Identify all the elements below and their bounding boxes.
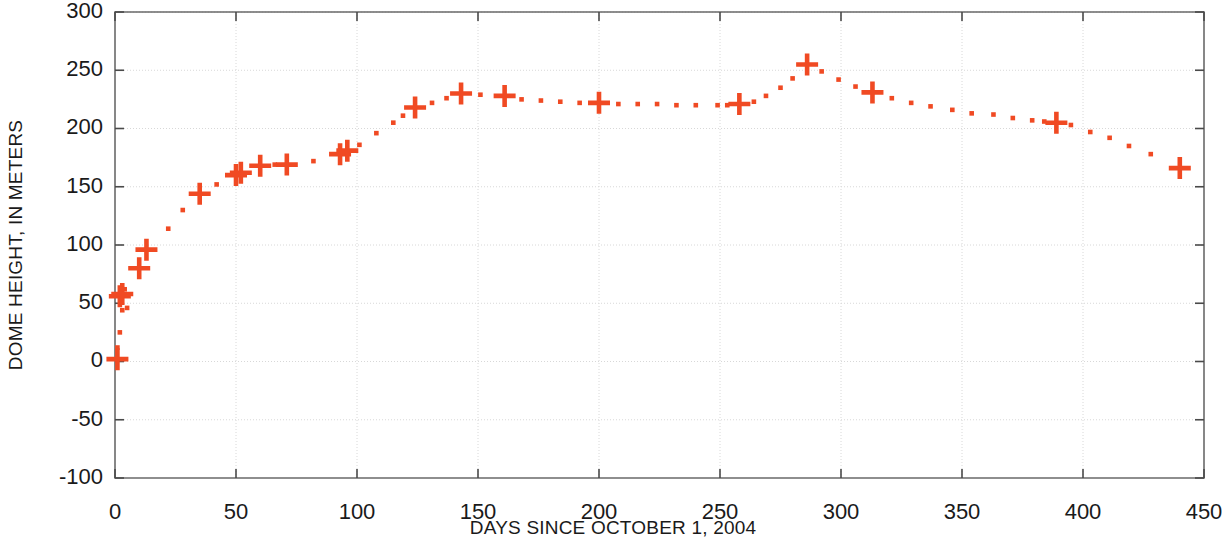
x-axis-title: DAYS SINCE OCTOBER 1, 2004 [470, 517, 757, 538]
chart-canvas: 050100150200250300350400450 -100-5005010… [0, 0, 1226, 544]
data-point-dot [715, 103, 720, 108]
data-point-dot [764, 94, 769, 99]
data-point-dot [577, 101, 582, 106]
x-tick-label: 450 [1186, 499, 1223, 524]
data-point-dot [478, 92, 483, 97]
data-point-dot [272, 162, 277, 167]
data-point-dot [969, 111, 974, 116]
data-point-dot [790, 76, 795, 81]
tick-marks [115, 12, 1204, 478]
data-point-plus [861, 81, 883, 103]
series-measured [106, 53, 1190, 370]
data-point-plus [276, 154, 298, 176]
data-point-plus [588, 92, 610, 114]
data-point-dot [635, 102, 640, 107]
data-point-dot [118, 330, 123, 335]
data-point-plus [1045, 112, 1067, 134]
x-tick-label: 0 [109, 499, 121, 524]
data-point-dot [1069, 123, 1074, 128]
data-point-dot [991, 112, 996, 117]
y-axis-tick-labels: -100-50050100150200250300 [59, 0, 103, 489]
data-point-plus [230, 162, 252, 184]
data-point-dot [558, 99, 563, 104]
data-point-plus [106, 348, 128, 370]
data-point-dot [519, 97, 524, 102]
y-axis-title: DOME HEIGHT, IN METERS [5, 120, 26, 370]
data-point-dot [1042, 119, 1047, 124]
data-point-plus [404, 97, 426, 119]
x-tick-label: 50 [224, 499, 248, 524]
y-tick-label: 300 [66, 0, 103, 23]
data-point-dot [357, 143, 362, 148]
data-point-dot [539, 98, 544, 103]
data-point-dot [928, 104, 933, 109]
y-tick-label: 250 [66, 56, 103, 81]
data-point-dot [853, 84, 858, 89]
data-point-dot [180, 208, 185, 213]
data-point-dot [616, 102, 621, 107]
x-tick-label: 100 [339, 499, 376, 524]
data-point-dot [401, 113, 406, 118]
data-point-dot [1127, 144, 1132, 149]
data-point-dot [391, 120, 396, 125]
data-point-plus [728, 93, 750, 115]
data-point-dot [1088, 130, 1093, 135]
data-point-plus [109, 285, 131, 307]
data-point-dot [430, 101, 435, 106]
data-point-plus [796, 53, 818, 75]
data-point-plus [189, 183, 211, 205]
data-point-dot [311, 159, 316, 164]
grid-lines [115, 12, 1204, 478]
data-point-dot [115, 345, 120, 350]
data-point-dot [725, 103, 730, 108]
data-series-markers [106, 53, 1190, 370]
data-point-dot [890, 96, 895, 101]
data-point-dot [1011, 116, 1016, 121]
plot-frame [115, 12, 1204, 478]
data-point-dot [909, 101, 914, 106]
y-tick-label: -100 [59, 464, 103, 489]
y-tick-label: 0 [91, 347, 103, 372]
x-tick-label: 400 [1065, 499, 1102, 524]
data-point-dot [166, 226, 171, 231]
data-point-plus [494, 85, 516, 107]
data-point-dot [836, 77, 841, 82]
y-tick-label: 50 [79, 289, 103, 314]
data-point-dot [694, 103, 699, 108]
data-point-plus [225, 164, 247, 186]
data-point-dot [214, 182, 219, 187]
data-point-dot [120, 308, 125, 313]
plot-area-border [115, 12, 1204, 478]
data-point-dot [674, 103, 679, 108]
data-point-plus [1169, 157, 1191, 179]
y-tick-label: 150 [66, 173, 103, 198]
data-point-dot [819, 69, 824, 74]
data-point-dot [950, 108, 955, 113]
data-point-dot [125, 306, 130, 311]
data-point-dot [1030, 118, 1035, 123]
y-tick-label: -50 [71, 406, 103, 431]
data-point-dot [1148, 152, 1153, 157]
y-tick-label: 100 [66, 231, 103, 256]
dome-height-chart: 050100150200250300350400450 -100-5005010… [0, 0, 1226, 544]
data-point-plus [450, 83, 472, 105]
data-point-dot [122, 287, 127, 292]
data-point-plus [249, 155, 271, 177]
y-tick-label: 200 [66, 114, 103, 139]
data-point-dot [655, 102, 660, 107]
data-point-dot [778, 85, 783, 90]
series-interpolated [115, 69, 1153, 350]
data-point-dot [374, 131, 379, 136]
data-point-dot [752, 99, 757, 104]
data-point-dot [444, 96, 449, 101]
x-tick-label: 350 [944, 499, 981, 524]
x-tick-label: 300 [823, 499, 860, 524]
data-point-dot [1107, 136, 1112, 141]
